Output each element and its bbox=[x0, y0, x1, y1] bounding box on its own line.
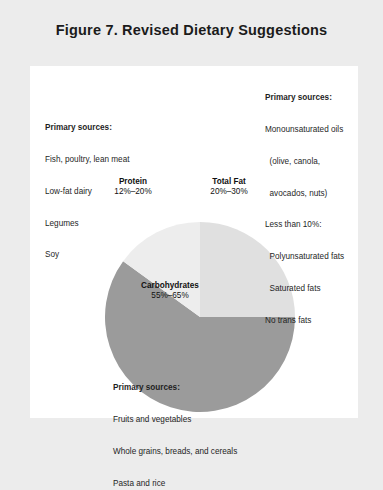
annotation-total-fat-line: avocados, nuts) bbox=[265, 189, 344, 200]
figure-title: Figure 7. Revised Dietary Suggestions bbox=[0, 22, 383, 38]
annotation-carbohydrates-line: Pasta and rice bbox=[113, 479, 237, 490]
pie-label-carbohydrates-value: 55%–65% bbox=[110, 291, 230, 301]
annotation-total-fat-sources: Primary sources: Monounsaturated oils (o… bbox=[265, 72, 344, 347]
annotation-total-fat-line: Polyunsaturated fats bbox=[265, 252, 344, 263]
annotation-total-fat-line: Saturated fats bbox=[265, 284, 344, 295]
annotation-total-fat-line: (olive, canola, bbox=[265, 157, 344, 168]
annotation-protein-line: Fish, poultry, lean meat bbox=[45, 155, 130, 166]
annotation-total-fat-line: Monounsaturated oils bbox=[265, 125, 344, 136]
annotation-carbohydrates-line: Fruits and vegetables bbox=[113, 415, 237, 426]
annotation-carbohydrates-sources: Primary sources: Fruits and vegetables W… bbox=[113, 362, 237, 490]
pie-label-carbohydrates: Carbohydrates 55%–65% bbox=[110, 281, 230, 302]
annotation-protein-line: Low-fat dairy bbox=[45, 187, 130, 198]
annotation-carbohydrates-line: Whole grains, breads, and cereals bbox=[113, 447, 237, 458]
annotation-protein-sources: Primary sources: Fish, poultry, lean mea… bbox=[45, 102, 130, 282]
annotation-carbohydrates-heading: Primary sources: bbox=[113, 383, 237, 394]
annotation-total-fat-heading: Primary sources: bbox=[265, 93, 344, 104]
pie-label-total-fat-name: Total Fat bbox=[188, 177, 270, 187]
pie-label-total-fat: Total Fat 20%–30% bbox=[188, 177, 270, 198]
annotation-total-fat-line: Less than 10%: bbox=[265, 220, 344, 231]
annotation-total-fat-line: No trans fats bbox=[265, 316, 344, 327]
annotation-protein-heading: Primary sources: bbox=[45, 123, 130, 134]
annotation-protein-line: Legumes bbox=[45, 219, 130, 230]
pie-label-total-fat-value: 20%–30% bbox=[188, 187, 270, 197]
annotation-protein-line: Soy bbox=[45, 250, 130, 261]
pie-label-carbohydrates-name: Carbohydrates bbox=[110, 281, 230, 291]
